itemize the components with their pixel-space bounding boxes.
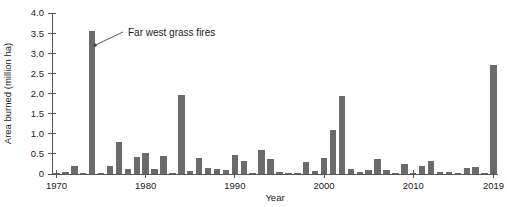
annotation-anchor-dot <box>94 44 97 47</box>
y-tick-label-1.5: 1.5 <box>31 108 44 119</box>
x-tick-label-1970: 1970 <box>46 180 67 191</box>
bar-1988 <box>214 169 220 174</box>
bar-1972 <box>71 166 77 174</box>
bar-chart-svg: 00.51.01.52.02.53.03.54.0197019801990200… <box>0 0 507 207</box>
y-tick-label-3.0: 3.0 <box>31 48 44 59</box>
y-tick-label-0: 0 <box>39 168 44 179</box>
y-tick-label-3.5: 3.5 <box>31 28 44 39</box>
y-axis-title: Area burned (million ha) <box>2 43 13 144</box>
bar-1994 <box>267 159 273 174</box>
annotation-leader-line <box>95 32 123 45</box>
bar-1987 <box>205 168 211 174</box>
bar-2019 <box>490 65 496 174</box>
bar-1991 <box>241 161 247 174</box>
bar-1977 <box>116 142 122 174</box>
y-axis: 00.51.01.52.02.53.03.54.0 <box>31 7 56 179</box>
bar-2001 <box>330 130 336 174</box>
bar-1979 <box>134 157 140 174</box>
bar-1976 <box>107 166 113 174</box>
y-tick-label-2.0: 2.0 <box>31 88 44 99</box>
bar-2016 <box>464 168 470 174</box>
x-axis-title: Year <box>265 192 284 203</box>
x-tick-label-1980: 1980 <box>135 180 156 191</box>
bars-group <box>53 31 497 174</box>
bar-1974 <box>89 31 95 174</box>
bar-1986 <box>196 158 202 174</box>
bar-2002 <box>339 96 345 174</box>
bar-2017 <box>472 167 478 174</box>
y-tick-label-1.0: 1.0 <box>31 128 44 139</box>
bar-1989 <box>223 170 229 174</box>
bar-1998 <box>303 162 309 174</box>
y-tick-label-0.5: 0.5 <box>31 148 44 159</box>
bar-2005 <box>365 170 371 174</box>
y-tick-label-2.5: 2.5 <box>31 68 44 79</box>
bar-2003 <box>348 169 354 174</box>
x-tick-label-1990: 1990 <box>224 180 245 191</box>
x-tick-label-2010: 2010 <box>403 180 424 191</box>
bar-2009 <box>401 164 407 174</box>
bar-2007 <box>383 170 389 174</box>
bar-2012 <box>428 161 434 174</box>
bar-2011 <box>419 166 425 174</box>
x-tick-label-2019: 2019 <box>483 180 504 191</box>
x-tick-label-2000: 2000 <box>313 180 334 191</box>
bar-1982 <box>160 156 166 174</box>
annotation-far-west-grass-fires: Far west grass fires <box>94 27 216 47</box>
bar-1984 <box>178 95 184 174</box>
y-tick-label-4.0: 4.0 <box>31 7 44 18</box>
annotation-label: Far west grass fires <box>128 27 215 38</box>
bar-1978 <box>125 169 131 174</box>
x-axis: 197019801990200020102019 <box>46 170 504 191</box>
bar-2006 <box>374 159 380 174</box>
chart-figure: 00.51.01.52.02.53.03.54.0197019801990200… <box>0 0 507 207</box>
bar-1993 <box>258 150 264 174</box>
bar-1981 <box>151 169 157 174</box>
